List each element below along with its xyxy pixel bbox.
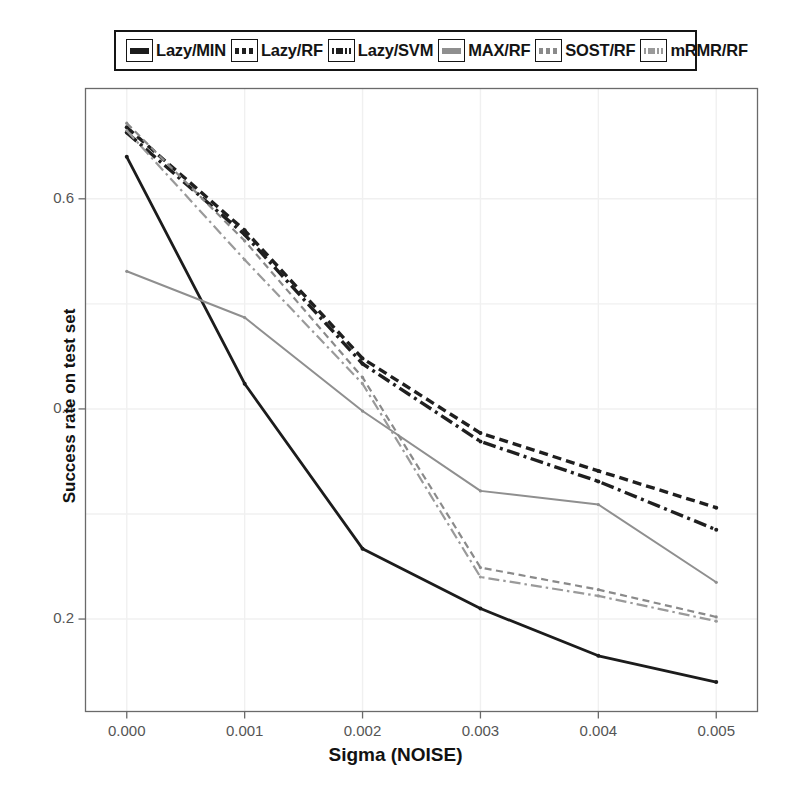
series-line-lazy-min xyxy=(127,157,716,682)
data-point-lazy-rf-4 xyxy=(596,469,600,473)
data-point-mrmr-rf-0 xyxy=(125,129,128,132)
data-point-lazy-min-1 xyxy=(243,382,247,386)
series-line-lazy-svm xyxy=(127,133,716,530)
data-point-max-rf-4 xyxy=(597,503,600,506)
data-point-mrmr-rf-3 xyxy=(479,575,482,578)
data-point-sost-rf-0 xyxy=(125,122,128,125)
data-point-lazy-min-3 xyxy=(478,607,482,611)
data-point-lazy-min-4 xyxy=(596,654,600,658)
data-point-sost-rf-5 xyxy=(715,615,718,618)
data-point-lazy-rf-3 xyxy=(478,431,482,435)
data-point-max-rf-3 xyxy=(479,489,482,492)
data-point-max-rf-2 xyxy=(361,409,364,412)
x-tick-label: 0.001 xyxy=(210,722,280,739)
data-point-sost-rf-4 xyxy=(597,588,600,591)
chart-figure: Lazy/MINLazy/RFLazy/SVMMAX/RFSOST/RFmRMR… xyxy=(0,0,791,792)
data-point-lazy-svm-2 xyxy=(361,362,365,366)
data-point-max-rf-5 xyxy=(715,581,718,584)
data-point-lazy-svm-3 xyxy=(478,440,482,444)
data-series-layer xyxy=(125,122,718,685)
data-point-lazy-svm-1 xyxy=(243,233,247,237)
data-point-max-rf-0 xyxy=(125,270,128,273)
data-point-lazy-svm-4 xyxy=(596,479,600,483)
data-point-mrmr-rf-4 xyxy=(597,594,600,597)
data-point-sost-rf-1 xyxy=(243,239,246,242)
data-point-lazy-rf-5 xyxy=(714,506,718,510)
series-line-sost-rf xyxy=(127,123,716,617)
data-point-mrmr-rf-1 xyxy=(243,258,246,261)
data-point-max-rf-1 xyxy=(243,316,246,319)
data-point-lazy-min-5 xyxy=(714,680,718,684)
plot-area xyxy=(0,0,791,792)
x-tick-label: 0.000 xyxy=(92,722,162,739)
data-point-lazy-min-2 xyxy=(361,547,365,551)
data-point-sost-rf-2 xyxy=(361,376,364,379)
x-tick-label: 0.004 xyxy=(563,722,633,739)
series-line-max-rf xyxy=(127,271,716,582)
axis-ticks xyxy=(79,199,717,719)
x-axis-title: Sigma (NOISE) xyxy=(0,744,791,766)
data-point-mrmr-rf-2 xyxy=(361,382,364,385)
x-tick-label: 0.003 xyxy=(445,722,515,739)
x-tick-label: 0.005 xyxy=(681,722,751,739)
data-point-sost-rf-3 xyxy=(479,566,482,569)
x-tick-label: 0.002 xyxy=(328,722,398,739)
data-point-lazy-min-0 xyxy=(125,155,129,159)
data-point-mrmr-rf-5 xyxy=(715,620,718,623)
y-axis-title: Success rate on test set xyxy=(60,196,80,616)
data-point-lazy-svm-5 xyxy=(714,528,718,532)
